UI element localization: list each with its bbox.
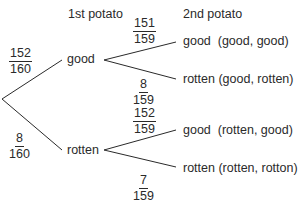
denominator: 159 — [133, 93, 154, 107]
denominator: 159 — [134, 122, 155, 136]
outcome-good-good: good (good, good) — [183, 35, 289, 48]
prob-good-rotten: 8 159 — [133, 78, 154, 106]
node-rotten: rotten — [67, 144, 99, 157]
prob-rotten-good: 152 159 — [133, 107, 156, 135]
branch-rotten-rotten — [104, 150, 176, 167]
denominator: 159 — [134, 32, 155, 46]
outcome-good-rotten: rotten (good, rotten) — [183, 73, 293, 86]
node-good: good — [67, 53, 95, 66]
numerator: 7 — [139, 174, 148, 189]
denominator: 160 — [9, 147, 30, 161]
header-2nd-potato: 2nd potato — [183, 8, 242, 21]
numerator: 8 — [15, 132, 24, 147]
numerator: 152 — [9, 47, 32, 62]
denominator: 159 — [133, 189, 154, 203]
outcome-rotten-rotten: rotten (rotten, rotton) — [183, 162, 298, 175]
numerator: 152 — [133, 107, 156, 122]
outcome-rotten-good: good (rotten, good) — [183, 124, 293, 137]
prob-first-rotten: 8 160 — [9, 132, 30, 160]
numerator: 8 — [139, 78, 148, 93]
numerator: 151 — [133, 17, 156, 32]
prob-good-good: 151 159 — [133, 17, 156, 45]
prob-rotten-rotten: 7 159 — [133, 174, 154, 202]
denominator: 160 — [10, 62, 31, 76]
prob-first-good: 152 160 — [9, 47, 32, 75]
header-1st-potato: 1st potato — [68, 8, 123, 21]
